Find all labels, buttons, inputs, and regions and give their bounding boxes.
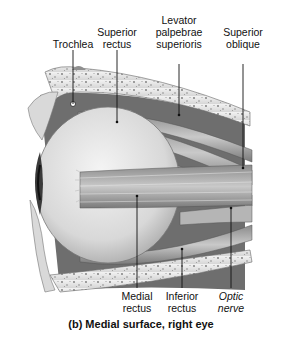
label-superior-rectus: Superior rectus <box>92 26 142 50</box>
label-trochlea: Trochlea <box>48 38 98 50</box>
figure-caption: (b) Medial surface, right eye <box>0 318 282 330</box>
label-levator-palpebrae-superioris: Levator palpebrae superioris <box>148 14 210 50</box>
label-superior-oblique: Superior oblique <box>218 26 268 50</box>
label-inferior-rectus: Inferior rectus <box>157 290 207 314</box>
label-optic-nerve: Optic nerve <box>206 290 256 314</box>
label-medial-rectus: Medial rectus <box>112 290 162 314</box>
